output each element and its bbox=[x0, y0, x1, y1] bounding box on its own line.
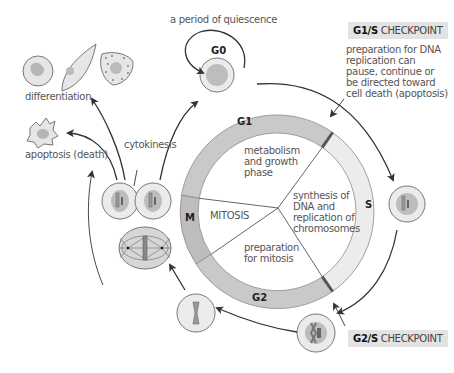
ring-segment-m bbox=[180, 195, 211, 264]
g1s-checkpoint-badge: G1/S CHECKPOINT bbox=[348, 22, 448, 39]
g2-phase-cell bbox=[297, 314, 335, 352]
phase-label-g2: G2 bbox=[252, 292, 267, 303]
arrow-prophase-to-metaphase bbox=[170, 265, 185, 290]
s-description: synthesis of DNA and replication of chro… bbox=[293, 190, 360, 234]
differentiation-label: differentiation bbox=[25, 91, 91, 102]
g0-cell bbox=[200, 58, 234, 92]
phase-label-m: M bbox=[185, 212, 195, 223]
cytokinesis-label: cytokinesis bbox=[124, 139, 176, 150]
arrow-to-differentiation bbox=[92, 99, 125, 180]
arrow-long-left bbox=[88, 172, 103, 285]
phase-label-g1: G1 bbox=[237, 116, 252, 127]
phase-label-s: S bbox=[365, 199, 372, 210]
arrow-g2-to-prophase bbox=[217, 308, 297, 332]
daughter-cells bbox=[102, 183, 171, 219]
g1-description: metabolism and growth phase bbox=[244, 145, 300, 178]
phase-label-g0: G0 bbox=[211, 45, 226, 56]
prophase-cell bbox=[177, 294, 215, 332]
g2-description: preparation for mitosis bbox=[244, 242, 299, 264]
m-description: MITOSIS bbox=[210, 210, 249, 221]
apoptotic-cell bbox=[27, 118, 58, 148]
quiescence-label: a period of quiescence bbox=[170, 14, 277, 25]
g1s-checkpoint-description: preparation for DNA replication can paus… bbox=[346, 44, 448, 99]
metaphase-cell bbox=[119, 227, 171, 269]
g2s-checkpoint-badge: G2/S CHECKPOINT bbox=[348, 330, 448, 347]
differentiated-cells bbox=[23, 44, 133, 91]
s-phase-cell bbox=[389, 186, 425, 222]
apoptosis-label: apoptosis (death) bbox=[25, 149, 108, 160]
